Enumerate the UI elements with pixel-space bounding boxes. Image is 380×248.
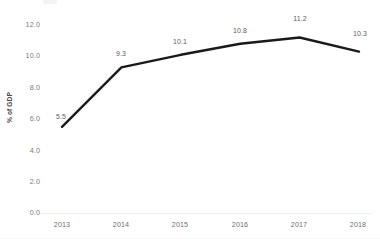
line-chart-figure: % of GDP 12.0 10.0 8.0 6.0 4.0 2.0 0.0 2… xyxy=(0,0,380,248)
data-label-2017: 11.2 xyxy=(285,15,315,23)
data-label-2015: 10.1 xyxy=(165,38,195,46)
data-label-2018: 10.3 xyxy=(345,30,375,38)
data-label-2016: 10.8 xyxy=(225,27,255,35)
data-label-2014: 9.3 xyxy=(106,50,136,58)
data-label-2013: 5.5 xyxy=(46,113,76,121)
plot-area: % of GDP 12.0 10.0 8.0 6.0 4.0 2.0 0.0 2… xyxy=(0,0,380,248)
